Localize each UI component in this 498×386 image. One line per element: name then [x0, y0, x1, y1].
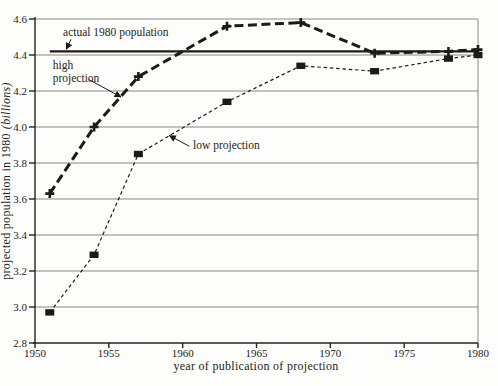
y-tick-label: 3.6: [13, 193, 27, 205]
series-high-projection-line: [50, 23, 478, 194]
series-low-projection-marker: [45, 309, 54, 315]
plot-area: 2.83.03.23.43.63.84.04.24.44.61950195519…: [13, 13, 489, 360]
population-projections-figure: 2.83.03.23.43.63.84.04.24.44.61950195519…: [0, 0, 498, 386]
annotation-low-projection: low projection: [193, 139, 260, 152]
y-axis-title-text: projected population in 1980: [0, 133, 13, 280]
y-axis-title-unit: (billions): [0, 82, 13, 129]
series-low-projection-marker: [134, 151, 143, 157]
y-tick-label: 4.4: [13, 49, 27, 61]
y-tick-label: 4.6: [13, 13, 27, 25]
y-tick-label: 3.4: [13, 229, 27, 241]
series-low-projection-marker: [296, 63, 305, 69]
x-tick-label: 1965: [246, 347, 269, 359]
x-tick-label: 1960: [172, 347, 195, 359]
series-low-projection-marker: [222, 99, 231, 105]
x-tick-label: 1975: [393, 347, 416, 359]
series-low-projection-marker: [474, 52, 483, 58]
series-low-projection-marker: [90, 252, 99, 258]
y-tick-label: 3.8: [13, 157, 27, 169]
annotation-arrow-low-projection: [169, 136, 189, 147]
y-tick-label: 3.2: [13, 265, 27, 277]
x-tick-label: 1970: [319, 347, 342, 359]
y-tick-label: 4.2: [13, 85, 27, 97]
annotation-arrow-high-projection: [89, 80, 121, 97]
x-tick-label: 1955: [98, 347, 121, 359]
y-tick-label: 4.0: [13, 121, 27, 133]
series-low-projection-marker: [444, 55, 453, 61]
y-axis-title: projected population in 1980(billions): [0, 82, 13, 280]
x-axis-title: year of publication of projection: [173, 359, 338, 373]
x-tick-label: 1980: [467, 347, 490, 359]
annotation-arrow-actual-1980-population: [66, 39, 71, 49]
x-tick-label: 1950: [24, 347, 47, 359]
series-high-projection-marker: [370, 49, 379, 58]
annotation-actual-1980-population: actual 1980 population: [63, 26, 169, 39]
y-tick-label: 3.0: [13, 301, 27, 313]
series-low-projection-marker: [370, 68, 379, 74]
